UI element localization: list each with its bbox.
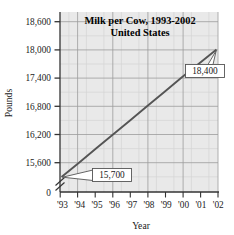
x-tick-label-94: '94: [74, 200, 85, 210]
y-axis-ticks: [55, 22, 61, 163]
x-tick-label-98: '98: [144, 200, 155, 210]
y-tick-label-zero: 0: [46, 188, 51, 198]
chart-subtitle: United States: [110, 27, 169, 38]
y-axis-title: Pounds: [3, 89, 14, 118]
chart-title: Milk per Cow, 1993-2002: [84, 15, 195, 26]
y-tick-label-15600: 15,600: [25, 158, 51, 168]
x-tick-label-93: '93: [57, 200, 68, 210]
y-tick-label-18000: 18,000: [25, 45, 51, 55]
y-tick-label-16800: 16,800: [25, 102, 51, 112]
x-axis-title: Year: [132, 220, 150, 231]
callout-label-15700: 15,700: [99, 170, 125, 180]
chart-figure: 18,600 18,000 17,400 16,800 16,200 15,60…: [0, 0, 234, 235]
callout-label-18400: 18,400: [192, 66, 218, 76]
milk-per-cow-line-chart: 18,600 18,000 17,400 16,800 16,200 15,60…: [0, 0, 234, 235]
x-tick-label-95: '95: [92, 200, 103, 210]
x-tick-label-01: '01: [195, 200, 206, 210]
x-tick-label-96: '96: [109, 200, 120, 210]
x-tick-label-99: '99: [161, 200, 172, 210]
y-tick-label-17400: 17,400: [25, 73, 51, 83]
x-axis-ticks: [60, 192, 218, 198]
x-tick-label-00: '00: [178, 200, 189, 210]
x-tick-label-97: '97: [126, 200, 137, 210]
y-tick-label-16200: 16,200: [25, 130, 51, 140]
y-tick-label-18600: 18,600: [25, 17, 51, 27]
x-tick-label-02: '02: [213, 200, 224, 210]
